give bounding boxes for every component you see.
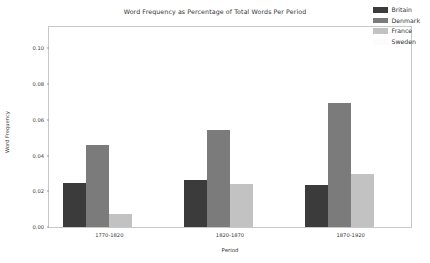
x-tick-label: 1870-1920	[337, 232, 365, 238]
legend-swatch-icon	[373, 7, 388, 13]
chart-title: Word Frequency as Percentage of Total Wo…	[0, 8, 430, 15]
legend-label: Denmark	[392, 17, 420, 25]
bar-britain[interactable]	[305, 185, 328, 227]
y-tick-label: 0.08	[32, 81, 44, 87]
legend-entry-sweden[interactable]: Sweden	[373, 38, 420, 46]
bar-group	[184, 27, 276, 227]
legend-entry-france[interactable]: France	[373, 27, 420, 35]
plot-inner: 0.000.020.040.060.080.10 1770-18201820-1…	[49, 27, 411, 227]
bar-britain[interactable]	[184, 180, 207, 227]
legend-label: Britain	[392, 6, 412, 14]
x-tick-label: 1820-1870	[216, 232, 244, 238]
x-axis-label: Period	[48, 247, 412, 253]
bar-france[interactable]	[230, 184, 253, 227]
legend-label: Sweden	[392, 38, 416, 46]
bar-denmark[interactable]	[86, 145, 109, 227]
bar-france[interactable]	[109, 214, 132, 227]
legend-swatch-icon	[373, 39, 388, 45]
plot-area: 0.000.020.040.060.080.10 1770-18201820-1…	[48, 26, 412, 228]
bar-group	[63, 27, 155, 227]
y-tick-label: 0.04	[32, 153, 44, 159]
bar-denmark[interactable]	[207, 130, 230, 227]
legend-entry-denmark[interactable]: Denmark	[373, 17, 420, 25]
y-tick-mark	[47, 155, 50, 156]
y-tick-mark	[47, 191, 50, 192]
bar-group	[305, 27, 397, 227]
x-tick-label: 1770-1820	[95, 232, 123, 238]
y-tick-mark	[47, 84, 50, 85]
legend-swatch-icon	[373, 18, 388, 24]
y-axis-label: Word Frequency	[4, 111, 10, 153]
chart-figure: Word Frequency as Percentage of Total Wo…	[0, 0, 430, 263]
y-tick-mark	[47, 119, 50, 120]
y-tick-label: 0.02	[32, 188, 44, 194]
bar-britain[interactable]	[63, 183, 86, 227]
bar-france[interactable]	[351, 174, 374, 227]
legend-label: France	[392, 27, 413, 35]
bar-denmark[interactable]	[328, 103, 351, 227]
chart-legend: BritainDenmarkFranceSweden	[373, 6, 420, 46]
y-tick-label: 0.06	[32, 117, 44, 123]
legend-swatch-icon	[373, 28, 388, 34]
legend-entry-britain[interactable]: Britain	[373, 6, 420, 14]
y-tick-label: 0.00	[32, 224, 44, 230]
y-tick-mark	[47, 48, 50, 49]
y-tick-label: 0.10	[32, 45, 44, 51]
y-tick-mark	[47, 227, 50, 228]
